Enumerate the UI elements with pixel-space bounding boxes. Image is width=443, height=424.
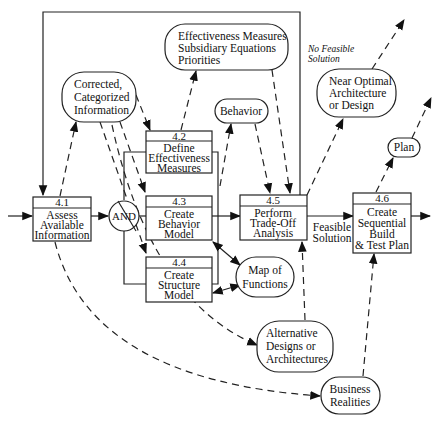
functional-flow-diagram: 4.1 Assess Available Information AND 4.2… <box>0 0 443 424</box>
data-label: Priorities <box>178 54 221 66</box>
function-id: 4.4 <box>172 256 186 268</box>
function-box-4-1[interactable]: 4.1 Assess Available Information <box>33 196 91 241</box>
data-label: Plan <box>394 141 415 153</box>
join-bus <box>212 152 218 284</box>
function-label: Information <box>35 229 90 241</box>
function-id: 4.3 <box>172 195 186 207</box>
function-label: Model <box>164 228 194 240</box>
data-label: or Design <box>329 99 374 112</box>
function-label: & Test Plan <box>355 239 409 251</box>
line-and-to-4-2 <box>124 152 146 200</box>
edge-label: Solution <box>308 54 340 64</box>
data-label: Realities <box>330 396 371 408</box>
data-label: Business <box>330 383 371 395</box>
data-label: Map of <box>248 264 282 277</box>
data-behavior[interactable]: Behavior <box>215 99 268 123</box>
arrow-4-6-to-plan <box>376 158 393 192</box>
data-label: Behavior <box>220 105 262 117</box>
function-box-4-3[interactable]: 4.3 Create Behavior Model <box>146 195 212 240</box>
data-map-of-functions[interactable]: Map of Functions <box>236 257 294 297</box>
data-label: Corrected, <box>74 78 122 91</box>
arrow-business-to-4-6 <box>363 254 374 376</box>
function-label: Analysis <box>253 227 294 240</box>
data-label: Categorized <box>74 91 130 104</box>
arrow-4-1-to-corrected <box>60 122 76 196</box>
arrow-near-optimal-out <box>372 20 404 69</box>
arrow-corrected-to-4-2 <box>136 95 150 130</box>
function-id: 4.2 <box>172 130 186 142</box>
edge-label-no-feasible: No Feasible Solution <box>307 44 354 64</box>
arrow-plan-out <box>412 98 431 138</box>
arrow-4-4-map-functions <box>213 285 240 293</box>
data-alternative-designs[interactable]: Alternative Designs or Architectures <box>257 321 333 372</box>
function-id: 4.5 <box>266 194 280 206</box>
arrow-4-2-to-effectiveness <box>181 71 196 130</box>
function-id: 4.1 <box>55 196 69 208</box>
data-corrected-information[interactable]: Corrected, Categorized Information <box>62 72 136 122</box>
function-box-4-5[interactable]: 4.5 Perform Trade-Off Analysis <box>240 194 307 240</box>
data-business-realities[interactable]: Business Realities <box>321 377 380 414</box>
data-label: Effectiveness Measures <box>178 30 287 42</box>
function-label: Measures <box>157 162 202 174</box>
and-gate: AND <box>109 201 139 231</box>
function-box-4-2[interactable]: 4.2 Define Effectiveness Measures <box>146 130 212 174</box>
arrow-alternative-to-4-5 <box>302 242 305 320</box>
line-and-to-4-4 <box>124 231 146 284</box>
function-box-4-6[interactable]: 4.6 Create Sequential Build & Test Plan <box>353 192 411 253</box>
and-gate-label: AND <box>112 210 136 222</box>
arrow-4-3-map-functions <box>213 242 240 265</box>
arrow-behavior-to-4-5 <box>255 124 270 193</box>
data-label: Alternative <box>266 327 318 339</box>
function-label: Model <box>164 289 194 301</box>
data-label: Architecture <box>329 87 386 99</box>
edge-label: No Feasible <box>307 44 354 54</box>
edge-label-feasible: Feasible Solution <box>313 221 352 244</box>
arrow-4-5-to-near-optimal <box>307 119 343 195</box>
data-label: Information <box>74 104 129 116</box>
arrow-corrected-to-4-4 <box>100 122 146 253</box>
data-label: Architectures <box>266 353 328 365</box>
function-box-4-4[interactable]: 4.4 Create Structure Model <box>146 256 212 302</box>
edge-label: Solution <box>313 232 352 244</box>
data-label: Functions <box>242 278 288 290</box>
data-plan[interactable]: Plan <box>388 138 420 157</box>
data-effectiveness-measures[interactable]: Effectiveness Measures Subsidiary Equati… <box>165 24 288 70</box>
arrow-4-3-to-behavior <box>220 124 231 186</box>
function-id: 4.6 <box>375 192 389 204</box>
data-label: Designs or <box>266 340 316 353</box>
data-near-optimal[interactable]: Near Optimal Architecture or Design <box>317 69 396 117</box>
arrow-effectiveness-to-4-5 <box>272 70 290 193</box>
